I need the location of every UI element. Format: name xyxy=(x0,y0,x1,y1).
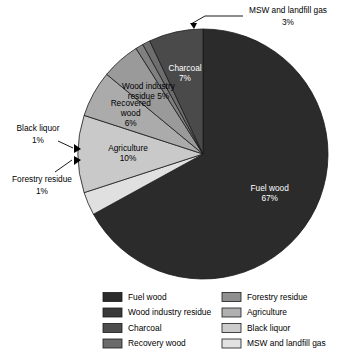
legend-swatch-forestry-residue xyxy=(222,293,241,302)
msw-leader-line xyxy=(191,16,243,24)
legend-label-charcoal: Charcoal xyxy=(128,323,162,333)
msw-callout-line1: MSW and landfill gas xyxy=(249,5,327,15)
legend-swatch-wood-industry-residue xyxy=(103,308,122,317)
pie-label-wood-industry-residue: Wood industry xyxy=(122,81,176,91)
legend-label-black-liquor: Black liquor xyxy=(247,323,291,333)
forestry-residue-callout: Forestry residue 1% xyxy=(12,156,81,196)
pie-label-charcoal: Charcoal xyxy=(168,63,201,73)
pie-slice-group xyxy=(78,29,328,279)
legend-swatch-charcoal xyxy=(103,324,122,333)
pie-label-fuel-wood: 67% xyxy=(261,193,278,203)
legend-swatch-fuel-wood xyxy=(103,293,122,302)
pie-label-charcoal: 7% xyxy=(179,73,192,83)
legend-label-recovery-wood: Recovery wood xyxy=(128,338,186,348)
pie-label-agriculture: 10% xyxy=(120,153,137,163)
legend-label-forestry-residue: Forestry residue xyxy=(247,292,308,302)
black-liquor-leader-line xyxy=(58,141,73,148)
pie-chart-svg: Fuel wood67%Agriculture10%Recoveredwood6… xyxy=(0,0,343,357)
pie-label-recovered-wood: 6% xyxy=(125,118,138,128)
forestry-callout-line1: Forestry residue xyxy=(12,174,72,184)
legend-label-wood-industry-residue: Wood industry residue xyxy=(128,307,212,317)
msw-callout-line2: 3% xyxy=(282,17,295,27)
legend-swatch-agriculture xyxy=(222,308,241,317)
msw-arrow-head xyxy=(190,23,197,29)
pie-label-recovered-wood: wood xyxy=(120,108,141,118)
forestry-leader-line xyxy=(55,160,72,172)
legend-swatch-recovery-wood xyxy=(103,339,122,348)
legend-label-msw-and-landfill-gas: MSW and landfill gas xyxy=(247,338,326,348)
pie-label-wood-industry-residue: residue 5% xyxy=(128,91,170,101)
black-liquor-callout-line2: 1% xyxy=(32,135,45,145)
chart-legend: Fuel woodWood industry residueCharcoalRe… xyxy=(103,292,326,349)
pie-label-fuel-wood: Fuel wood xyxy=(251,183,290,193)
msw-callout: MSW and landfill gas 3% xyxy=(190,5,327,29)
legend-label-agriculture: Agriculture xyxy=(247,307,287,317)
black-liquor-callout-line1: Black liquor xyxy=(17,123,60,133)
pie-chart-figure: Fuel wood67%Agriculture10%Recoveredwood6… xyxy=(0,0,343,357)
legend-label-fuel-wood: Fuel wood xyxy=(128,292,167,302)
legend-swatch-black-liquor xyxy=(222,324,241,333)
legend-swatch-msw-and-landfill-gas xyxy=(222,339,241,348)
forestry-callout-line2: 1% xyxy=(36,186,49,196)
black-liquor-callout: Black liquor 1% xyxy=(17,123,81,153)
pie-label-agriculture: Agriculture xyxy=(108,143,148,153)
